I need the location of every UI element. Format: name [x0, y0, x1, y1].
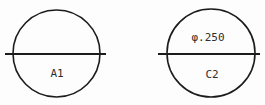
right-circle-dimension-label: φ.250 — [191, 31, 224, 44]
right-circle-group: φ.250 C2 — [158, 9, 260, 97]
left-circle-label: A1 — [50, 67, 63, 80]
left-circle-group: A1 — [5, 10, 106, 97]
right-circle-label: C2 — [205, 68, 218, 81]
drawing-canvas: A1 φ.250 C2 — [0, 0, 265, 105]
technical-drawing: A1 φ.250 C2 — [0, 0, 265, 105]
